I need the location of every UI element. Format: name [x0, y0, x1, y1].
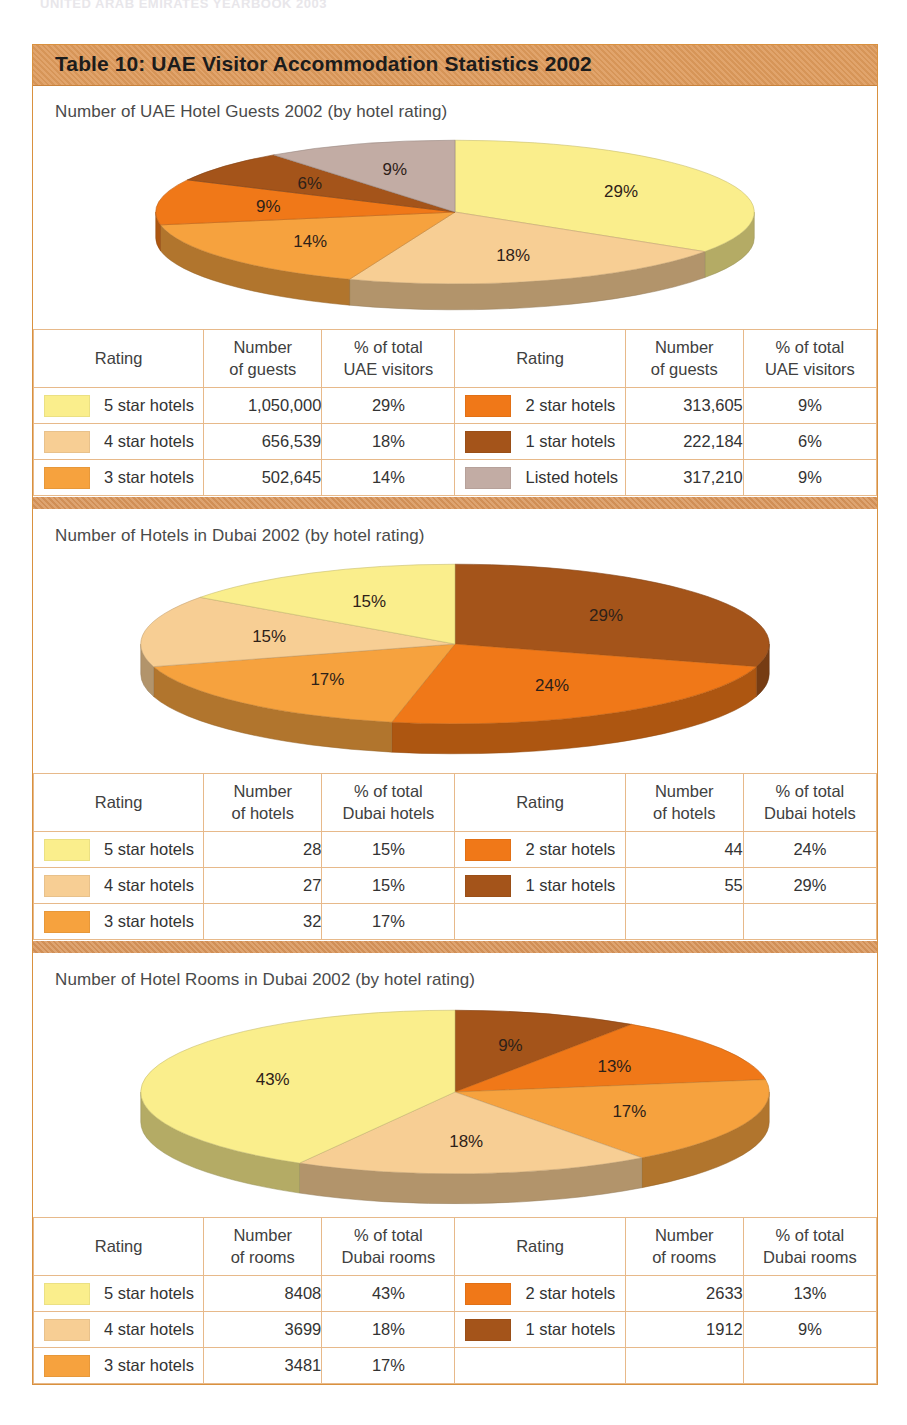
pie-slice-label: 43%	[256, 1070, 290, 1089]
pie-top-faces	[156, 140, 755, 284]
number-cell-left: 8408	[204, 1276, 322, 1312]
header-rating-left: Rating	[34, 1218, 204, 1276]
rating-label: 3 star hotels	[104, 912, 194, 931]
header-number-left: Number of rooms	[204, 1218, 322, 1276]
header-number-line2: of guests	[204, 359, 321, 380]
rating-cell: 5 star hotels	[34, 388, 204, 424]
pie-svg: 29%24%17%15%15%	[33, 548, 877, 773]
rating-label: 1 star hotels	[525, 1320, 615, 1339]
table-row: 4 star hotels656,53918%1 star hotels222,…	[34, 424, 877, 460]
rating-label: 4 star hotels	[104, 876, 194, 895]
pct-cell-right: 24%	[743, 832, 876, 868]
legend-swatch	[465, 467, 511, 489]
pct-cell-right: 9%	[743, 1312, 876, 1348]
pct-cell-right: 29%	[743, 868, 876, 904]
rating-cell: 2 star hotels	[455, 832, 625, 868]
rating-cell: 1 star hotels	[455, 424, 625, 460]
number-cell-left: 3481	[204, 1348, 322, 1384]
pie-slice-label: 17%	[612, 1102, 646, 1121]
table-body: 5 star hotels1,050,00029%2 star hotels31…	[34, 388, 877, 496]
header-pct-line1: % of total	[744, 1225, 876, 1246]
number-cell-left: 28	[204, 832, 322, 868]
header-pct-line2: UAE visitors	[322, 359, 454, 380]
rating-cell: 3 star hotels	[34, 460, 204, 496]
table-row: 5 star hotels840843%2 star hotels263313%	[34, 1276, 877, 1312]
legend-swatch	[44, 431, 90, 453]
header-number-line1: Number	[204, 337, 321, 358]
table-title: Table 10: UAE Visitor Accommodation Stat…	[33, 45, 877, 86]
header-pct-right: % of total UAE visitors	[743, 330, 876, 388]
table-row: 5 star hotels2815%2 star hotels4424%	[34, 832, 877, 868]
header-number-right: Number of guests	[625, 330, 743, 388]
number-cell-right: 44	[625, 832, 743, 868]
legend-swatch	[44, 839, 90, 861]
legend-swatch	[465, 395, 511, 417]
rating-label: 1 star hotels	[525, 432, 615, 451]
header-number-line1: Number	[626, 1225, 743, 1246]
header-pct-line2: Dubai rooms	[744, 1247, 876, 1268]
section-dubai-hotels: Number of Hotels in Dubai 2002 (by hotel…	[33, 510, 877, 940]
rating-cell: 1 star hotels	[455, 1312, 625, 1348]
pie-chart-uae-hotel-guests: 29%18%14%9%6%9%	[33, 124, 877, 329]
rating-label: 4 star hotels	[104, 1320, 194, 1339]
table-row: 4 star hotels369918%1 star hotels19129%	[34, 1312, 877, 1348]
pct-cell-left: 17%	[322, 904, 455, 940]
table-row: 4 star hotels2715%1 star hotels5529%	[34, 868, 877, 904]
header-pct-right: % of total Dubai rooms	[743, 1218, 876, 1276]
table-body: 5 star hotels840843%2 star hotels263313%…	[34, 1276, 877, 1384]
pie-slice-label: 6%	[298, 174, 322, 193]
rating-label: 5 star hotels	[104, 840, 194, 859]
header-number-line2: of guests	[626, 359, 743, 380]
pct-cell-right	[743, 1348, 876, 1384]
table-row: 3 star hotels3217%	[34, 904, 877, 940]
section-title: Number of Hotel Rooms in Dubai 2002 (by …	[33, 954, 877, 992]
header-number-left: Number of hotels	[204, 774, 322, 832]
table-row: 5 star hotels1,050,00029%2 star hotels31…	[34, 388, 877, 424]
pct-cell-left: 15%	[322, 832, 455, 868]
pie-slice-label: 15%	[352, 592, 386, 611]
pie-slice-label: 18%	[496, 246, 530, 265]
header-pct-left: % of total Dubai hotels	[322, 774, 455, 832]
stats-table-uae-hotel-guests: Rating Number of guests % of total UAE v…	[33, 329, 877, 496]
rating-cell: Listed hotels	[455, 460, 625, 496]
header-number-left: Number of guests	[204, 330, 322, 388]
header-number-line2: of rooms	[204, 1247, 321, 1268]
pie-top-faces	[141, 564, 770, 724]
legend-swatch	[44, 1319, 90, 1341]
legend-swatch	[465, 875, 511, 897]
pct-cell-right	[743, 904, 876, 940]
legend-swatch	[44, 467, 90, 489]
pie-slice-label: 9%	[498, 1036, 522, 1055]
rating-cell: 3 star hotels	[34, 1348, 204, 1384]
header-number-line2: of hotels	[204, 803, 321, 824]
pct-cell-left: 18%	[322, 424, 455, 460]
header-pct-line1: % of total	[744, 337, 876, 358]
pct-cell-right: 13%	[743, 1276, 876, 1312]
legend-swatch	[44, 395, 90, 417]
pie-slice-label: 14%	[293, 232, 327, 251]
pie-slice-label: 13%	[597, 1057, 631, 1076]
number-cell-right: 1912	[625, 1312, 743, 1348]
header-number-right: Number of rooms	[625, 1218, 743, 1276]
header-pct-line2: Dubai rooms	[322, 1247, 454, 1268]
legend-swatch	[44, 875, 90, 897]
table-body: 5 star hotels2815%2 star hotels4424%4 st…	[34, 832, 877, 940]
header-number-right: Number of hotels	[625, 774, 743, 832]
pct-cell-left: 17%	[322, 1348, 455, 1384]
pie-slice-label: 15%	[252, 627, 286, 646]
rating-cell: 4 star hotels	[34, 424, 204, 460]
header-rating-right: Rating	[455, 1218, 625, 1276]
header-number-line2: of rooms	[626, 1247, 743, 1268]
page-root: UNITED ARAB EMIRATES YEARBOOK 2003 Table…	[0, 0, 907, 1425]
number-cell-left: 502,645	[204, 460, 322, 496]
section-dubai-hotel-rooms: Number of Hotel Rooms in Dubai 2002 (by …	[33, 954, 877, 1384]
number-cell-right	[625, 904, 743, 940]
header-pct-line2: Dubai hotels	[744, 803, 876, 824]
legend-swatch	[465, 1283, 511, 1305]
stats-table-dubai-hotels: Rating Number of hotels % of total Dubai…	[33, 773, 877, 940]
header-number-line2: of hotels	[626, 803, 743, 824]
table-header-row: Rating Number of rooms % of total Dubai …	[34, 1218, 877, 1276]
rating-label: Listed hotels	[525, 468, 618, 487]
header-pct-line1: % of total	[744, 781, 876, 802]
table-header-row: Rating Number of hotels % of total Dubai…	[34, 774, 877, 832]
